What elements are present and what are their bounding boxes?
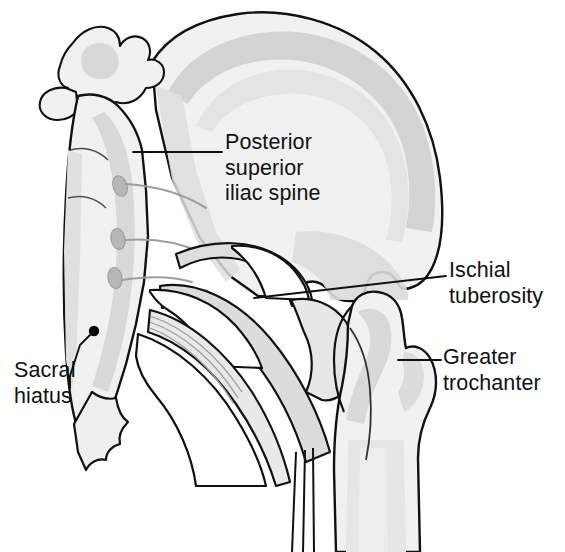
femur-shaft-highlight [358,448,388,552]
label-posterior-superior-iliac-spine: Posterior superior iliac spine [225,130,321,207]
label-sacral-hiatus: Sacral hiatus [14,358,76,409]
lumbar-vertebra-shadow [81,43,119,79]
femur [334,292,436,552]
descending-ramus-lines [292,448,314,552]
label-greater-trochanter: Greater trochanter [443,345,541,396]
transverse-process-left [40,88,78,120]
label-ischial-tuberosity: Ischial tuberosity [449,258,543,309]
